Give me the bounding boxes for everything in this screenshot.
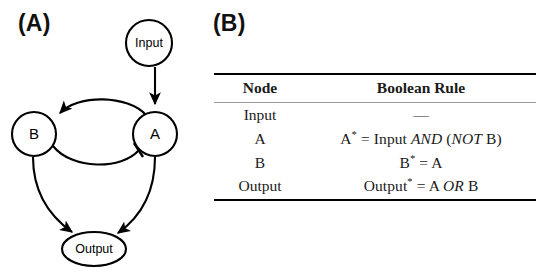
panel-a-network-diagram: (A) bbox=[0, 0, 205, 278]
edge-a-to-b bbox=[60, 99, 146, 115]
cell-rule-a: A* = Input AND (NOT B) bbox=[306, 127, 536, 151]
rule-output-equals: = bbox=[413, 177, 429, 194]
table-row: Input — bbox=[214, 103, 536, 127]
cell-node-a: A bbox=[214, 127, 306, 151]
rule-dash: — bbox=[413, 106, 429, 123]
table-row: B B* = A bbox=[214, 151, 536, 175]
rule-a-operator-and: AND bbox=[411, 130, 442, 147]
rule-output-term-a: A bbox=[429, 177, 443, 194]
boolean-rules-table: Node Boolean Rule Input — A A* = Input A… bbox=[214, 73, 536, 201]
rule-a-term-input: Input bbox=[374, 130, 411, 147]
edge-b-to-output bbox=[33, 157, 72, 232]
cell-node-input: Input bbox=[214, 103, 306, 127]
table-row: A A* = Input AND (NOT B) bbox=[214, 127, 536, 151]
table-header-row: Node Boolean Rule bbox=[214, 74, 536, 103]
table-row: Output Output* = A OR B bbox=[214, 174, 536, 200]
rule-a-lhs: A bbox=[340, 130, 351, 147]
rule-b-equals: = bbox=[415, 154, 431, 171]
rule-a-open-paren: ( bbox=[442, 130, 451, 147]
node-b-label: B bbox=[29, 125, 39, 142]
edge-layer bbox=[33, 67, 155, 233]
node-input[interactable]: Input bbox=[126, 20, 172, 66]
network-diagram-svg: Input B A Output bbox=[0, 0, 205, 278]
rule-output-term-b: B bbox=[464, 177, 478, 194]
rule-a-operator-not: NOT bbox=[452, 130, 482, 147]
node-a-label: A bbox=[150, 125, 160, 142]
column-header-node: Node bbox=[214, 74, 306, 103]
rule-a-term-b: B) bbox=[482, 130, 502, 147]
edge-b-inhibits-a bbox=[53, 146, 139, 165]
cell-rule-output: Output* = A OR B bbox=[306, 174, 536, 200]
node-output-label: Output bbox=[75, 242, 113, 256]
table-header: Node Boolean Rule bbox=[214, 74, 536, 103]
column-header-boolean-rule: Boolean Rule bbox=[306, 74, 536, 103]
cell-node-output: Output bbox=[214, 174, 306, 200]
node-output[interactable]: Output bbox=[62, 232, 126, 266]
panel-b-label: (B) bbox=[213, 12, 246, 35]
figure-root: (A) bbox=[0, 0, 540, 278]
node-layer: Input B A Output bbox=[12, 20, 177, 266]
cell-rule-input: — bbox=[306, 103, 536, 127]
cell-node-b: B bbox=[214, 151, 306, 175]
edge-a-to-output bbox=[118, 157, 155, 233]
rule-output-lhs: Output bbox=[364, 177, 408, 194]
rule-b-term-a: A bbox=[431, 154, 442, 171]
rule-output-operator-or: OR bbox=[443, 177, 464, 194]
table-body: Input — A A* = Input AND (NOT B) B B* = … bbox=[214, 103, 536, 201]
rule-b-lhs: B bbox=[399, 154, 409, 171]
node-input-label: Input bbox=[135, 36, 163, 50]
node-a[interactable]: A bbox=[133, 112, 177, 156]
node-b[interactable]: B bbox=[12, 112, 56, 156]
rule-a-equals: = bbox=[357, 130, 374, 147]
cell-rule-b: B* = A bbox=[306, 151, 536, 175]
